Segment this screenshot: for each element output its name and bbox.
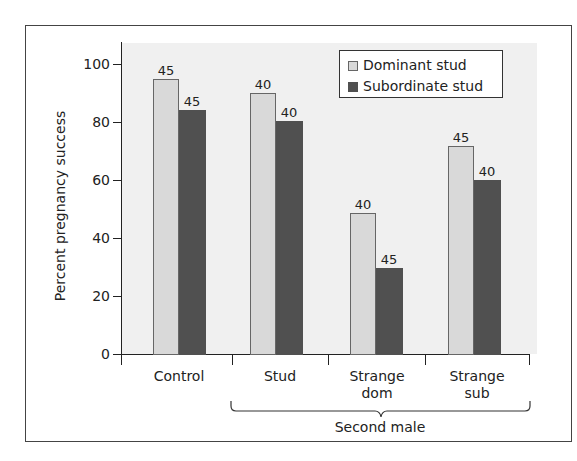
bar-strange-dom-dominant	[350, 213, 376, 355]
y-tick-100	[113, 64, 121, 65]
y-axis	[121, 42, 122, 355]
bar-control-dominant	[153, 79, 179, 355]
x-tick	[121, 354, 122, 365]
legend-swatch-light	[348, 61, 358, 71]
bar-label: 45	[177, 95, 207, 109]
y-axis-title: Percent pregnancy success	[52, 106, 68, 306]
y-tick-label: 80	[70, 114, 110, 130]
y-tick-label: 20	[70, 288, 110, 304]
category-label-strange-dom: Strange dom	[332, 368, 422, 402]
x-tick	[529, 354, 530, 365]
category-label-strange-sub: Strange sub	[432, 368, 522, 402]
bar-label: 40	[348, 198, 378, 212]
y-tick-40	[113, 238, 121, 239]
x-tick	[232, 354, 233, 365]
y-tick-label: 40	[70, 230, 110, 246]
x-tick	[425, 354, 426, 365]
group-label-second-male: Second male	[290, 419, 470, 436]
category-label-stud: Stud	[235, 368, 325, 385]
bar-label: 40	[472, 165, 502, 179]
legend: Dominant stud Subordinate stud	[339, 50, 503, 98]
bar-strange-dom-subordinate	[376, 268, 403, 355]
bar-stud-dominant	[250, 93, 276, 355]
bar-label: 45	[374, 253, 404, 267]
y-tick-label: 60	[70, 172, 110, 188]
bar-strange-sub-subordinate	[474, 180, 501, 355]
bar-control-subordinate	[179, 110, 206, 355]
y-tick-20	[113, 296, 121, 297]
category-label-control: Control	[134, 368, 224, 385]
bar-strange-sub-dominant	[448, 146, 474, 355]
legend-swatch-dark	[348, 82, 358, 92]
y-tick-label: 0	[70, 346, 110, 362]
bar-label: 40	[248, 78, 278, 92]
bar-label: 45	[151, 64, 181, 78]
bar-stud-subordinate	[276, 121, 303, 355]
y-tick-60	[113, 180, 121, 181]
y-tick-label: 100	[70, 56, 110, 72]
x-tick	[328, 354, 329, 365]
y-tick-0	[113, 354, 121, 355]
legend-item-dominant: Dominant stud	[348, 57, 467, 73]
y-tick-80	[113, 122, 121, 123]
legend-item-subordinate: Subordinate stud	[348, 78, 483, 94]
bar-label: 40	[274, 106, 304, 120]
bar-label: 45	[446, 131, 476, 145]
